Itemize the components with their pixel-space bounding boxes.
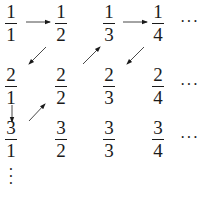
arrow-up-right-icon: [83, 47, 100, 64]
enumeration-arrows: [0, 0, 198, 198]
arrow-up-right-icon: [29, 104, 45, 121]
arrow-down-left-icon: [29, 47, 46, 64]
arrow-down-left-icon: [127, 47, 144, 64]
